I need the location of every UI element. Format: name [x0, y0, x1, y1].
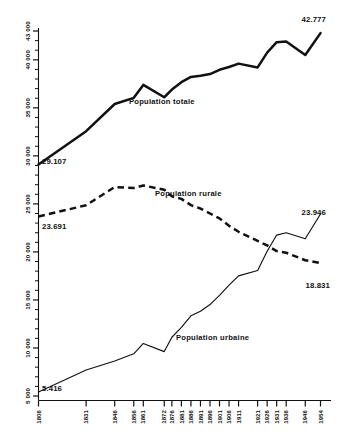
- x-axis-ticks: [39, 401, 321, 407]
- x-axis-tick-label: 1872: [161, 409, 167, 423]
- annotation-total-end-value: 42.777: [302, 15, 326, 24]
- y-axis-tick-label: 25 000: [24, 194, 31, 214]
- population-line-chart: 5 00010 00015 00020 00025 00030 00035 00…: [0, 0, 337, 440]
- x-axis-tick-label: 1896: [207, 409, 213, 423]
- y-axis-tick-labels: 5 00010 00015 00020 00025 00030 00035 00…: [24, 21, 31, 404]
- x-axis-tick-label: 1946: [302, 409, 308, 423]
- series-line-population-urbaine: [39, 214, 321, 392]
- y-axis-tick-label: 43 000: [24, 21, 31, 41]
- y-axis-tick-label: 30 000: [24, 146, 31, 166]
- y-axis-tick-label: 20 000: [24, 242, 31, 262]
- series-labels-group: Population totale Population rurale Popu…: [129, 97, 249, 342]
- x-axis-tick-label: 1831: [83, 409, 89, 423]
- y-axis-tick-label: 5 000: [24, 388, 31, 404]
- x-axis-group: 1806183118461856186118721876188118861891…: [36, 401, 331, 424]
- x-axis-tick-labels: 1806183118461856186118721876188118861891…: [36, 409, 324, 423]
- y-axis-ticks: [33, 31, 39, 396]
- x-axis-tick-label: 1886: [188, 409, 194, 423]
- x-axis-tick-label: 1891: [198, 409, 204, 423]
- x-axis-tick-label: 1911: [236, 409, 242, 423]
- annotation-rurale-start-value: 23.691: [42, 222, 67, 231]
- annotation-total-start-value: 29.107: [42, 157, 66, 166]
- x-axis-tick-label: 1931: [274, 409, 280, 423]
- y-axis-tick-label: 35 000: [24, 98, 31, 118]
- x-axis-tick-label: 1921: [255, 409, 261, 423]
- x-axis-tick-label: 1926: [264, 409, 270, 423]
- x-axis-tick-label: 1901: [217, 409, 223, 423]
- x-axis-tick-label: 1906: [226, 409, 232, 423]
- x-axis-tick-label: 1806: [36, 409, 42, 423]
- series-label-population-rurale: Population rurale: [155, 189, 222, 198]
- x-axis-tick-label: 1861: [140, 409, 146, 423]
- y-axis-tick-label: 10 000: [24, 338, 31, 358]
- annotation-urbaine-start-value: 5.416: [42, 384, 63, 393]
- y-axis-tick-label: 15 000: [24, 290, 31, 310]
- x-axis-tick-label: 1881: [179, 409, 185, 423]
- x-axis-tick-label: 1846: [112, 409, 118, 423]
- x-axis-tick-label: 1954: [318, 409, 324, 423]
- x-axis-tick-label: 1876: [169, 409, 175, 423]
- annotation-rurale-end-value: 18.831: [306, 281, 331, 290]
- chart-canvas: 5 00010 00015 00020 00025 00030 00035 00…: [0, 0, 337, 440]
- x-axis-tick-label: 1856: [131, 409, 137, 423]
- y-axis-tick-label: 40 000: [24, 50, 31, 70]
- series-label-population-urbaine: Population urbaine: [176, 333, 249, 342]
- y-axis-group: 5 00010 00015 00020 00025 00030 00035 00…: [24, 21, 39, 404]
- annotation-urbaine-end-value: 23.946: [302, 208, 327, 217]
- series-label-population-totale: Population totale: [129, 97, 195, 106]
- x-axis-tick-label: 1936: [283, 409, 289, 423]
